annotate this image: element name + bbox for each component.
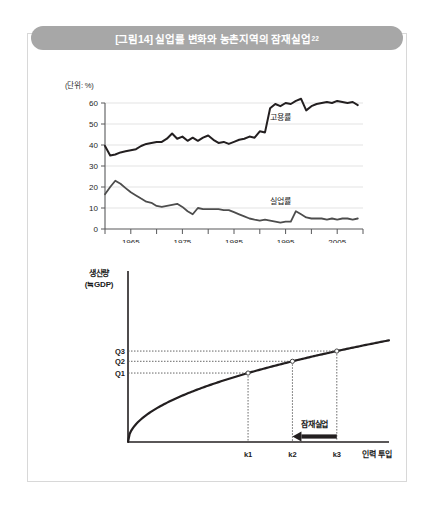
x-marker-label-k1: k1 — [244, 450, 252, 459]
y-axis-title-line2: (≒GDP) — [85, 280, 114, 289]
y-marker-label-q1: Q1 — [115, 369, 125, 378]
y-marker-label-q2: Q2 — [115, 357, 125, 366]
production-function-curve — [128, 340, 389, 442]
curve-point-marker — [290, 359, 294, 363]
curve-point-marker — [246, 371, 250, 375]
production-function-chart: 생산량 (≒GDP) Q3 Q2 Q1 k1 k2 k3 인력 투입 잠재실업 — [27, 33, 407, 482]
y-marker-label-q3: Q3 — [115, 347, 125, 356]
x-axis-title: 인력 투입 — [362, 449, 391, 459]
x-marker-label-k3: k3 — [333, 450, 341, 459]
curve-point-marker — [335, 349, 339, 353]
annotation-label-potential-unemployment: 잠재실업 — [301, 419, 328, 429]
y-axis-title-line1: 생산량 — [89, 268, 111, 278]
annotation-arrow-left — [292, 432, 336, 442]
x-marker-label-k2: k2 — [288, 450, 296, 459]
